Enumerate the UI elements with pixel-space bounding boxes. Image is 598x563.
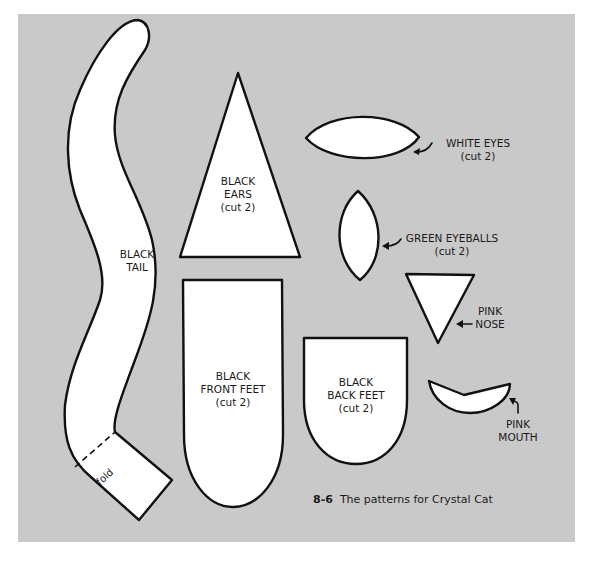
ears-label-name: EARS — [221, 188, 256, 201]
nose-arrow — [456, 320, 472, 328]
nose-label-color: PINK — [475, 305, 504, 318]
white-eyes-arrow — [413, 143, 432, 155]
mouth-arrow — [509, 398, 518, 413]
front-feet-label-color: BLACK — [201, 370, 266, 383]
figure-caption-text: The patterns for Crystal Cat — [340, 493, 493, 506]
ears-label-color: BLACK — [221, 175, 256, 188]
mouth-label: PINK MOUTH — [498, 418, 537, 444]
tail-pattern-piece — [65, 20, 172, 520]
back-feet-label: BLACK BACK FEET (cut 2) — [327, 376, 384, 415]
mouth-label-name: MOUTH — [498, 431, 537, 444]
mouth-label-color: PINK — [498, 418, 537, 431]
nose-pattern-piece — [406, 274, 474, 343]
back-feet-label-count: (cut 2) — [327, 402, 384, 415]
figure-caption: 8-6The patterns for Crystal Cat — [313, 493, 493, 506]
back-feet-label-color: BLACK — [327, 376, 384, 389]
ears-label-count: (cut 2) — [221, 201, 256, 214]
green-eyeballs-label-count: (cut 2) — [406, 245, 498, 258]
ears-pattern-piece — [180, 73, 300, 257]
green-eyeballs-arrow — [382, 239, 401, 250]
white-eyes-label-name: WHITE EYES — [446, 137, 510, 150]
back-feet-label-name: BACK FEET — [327, 389, 384, 402]
white-eyes-label: WHITE EYES (cut 2) — [446, 137, 510, 163]
white-eyes-label-count: (cut 2) — [446, 150, 510, 163]
front-feet-label-count: (cut 2) — [201, 396, 266, 409]
tail-label: BLACK TAIL — [120, 248, 155, 274]
ears-label: BLACK EARS (cut 2) — [221, 175, 256, 214]
pattern-pieces-drawing — [0, 0, 598, 563]
figure-number: 8-6 — [313, 493, 333, 506]
nose-label: PINK NOSE — [475, 305, 504, 331]
front-feet-label-name: FRONT FEET — [201, 383, 266, 396]
mouth-pattern-piece — [429, 381, 510, 413]
tail-label-color: BLACK — [120, 248, 155, 261]
nose-label-name: NOSE — [475, 318, 504, 331]
green-eyeballs-label-name: GREEN EYEBALLS — [406, 232, 498, 245]
tail-label-name: TAIL — [120, 261, 155, 274]
white-eyes-pattern-piece — [306, 117, 419, 158]
front-feet-label: BLACK FRONT FEET (cut 2) — [201, 370, 266, 409]
green-eyeballs-label: GREEN EYEBALLS (cut 2) — [406, 232, 498, 258]
green-eyeballs-pattern-piece — [339, 191, 378, 280]
